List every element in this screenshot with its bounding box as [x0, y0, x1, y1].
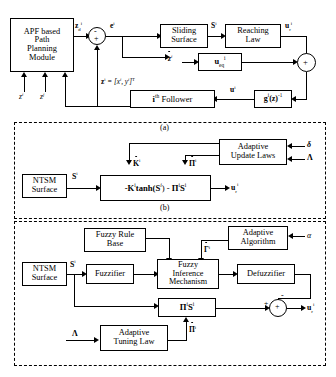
line-pis-to-sum — [216, 308, 267, 309]
label-pidot-b: Πi — [189, 159, 196, 168]
label-kdot: Ki — [133, 159, 140, 168]
section-label-b: (b) — [160, 203, 169, 212]
adaptive-update-line-2: Update Laws — [231, 152, 275, 161]
apf-feedback-arrow — [62, 72, 68, 77]
label-lambda-c: Λ — [72, 329, 78, 338]
line-rule-to-fim-h — [146, 238, 170, 239]
line-ginv-to-follower — [216, 99, 254, 100]
apf-feedback-vline — [65, 76, 66, 107]
block-adaptive-update-laws: Adaptive Update Laws — [219, 139, 287, 165]
line-sum2-down — [306, 72, 307, 100]
line-ueq-to-sum2 — [242, 62, 295, 63]
line-reaching-out — [281, 36, 307, 37]
apf-feedback-hline — [65, 106, 135, 107]
block-ntsm-surface-c: NTSM Surface — [22, 262, 67, 286]
line-lambda-input-b — [291, 159, 305, 160]
line-error-branch-down — [122, 36, 123, 58]
defuzzifier-label: Defuzzifier — [247, 270, 285, 279]
label-input-zi: zi — [19, 92, 23, 101]
apf-input-arrow-2 — [42, 72, 48, 77]
label-zdot: zi — [168, 54, 172, 63]
sliding-surface-line-2: Surface — [171, 36, 197, 45]
arrow-pidot — [182, 160, 188, 165]
label-signal-S-b: Si — [72, 172, 78, 181]
label-input-zj: zj — [40, 92, 44, 101]
label-signal-S-a: Si — [211, 21, 217, 30]
line-pidot-h — [185, 155, 219, 156]
arrow-feedback-to-sum — [94, 45, 100, 50]
fuzzifier-label: Fuzzifier — [95, 270, 125, 279]
label-alpha: α — [307, 231, 311, 240]
line-rule-to-fim-v — [169, 238, 170, 260]
line-gammadot-v — [201, 240, 202, 260]
block-defuzzifier: Defuzzifier — [237, 264, 295, 284]
label-pidot-c: Πi — [189, 325, 196, 334]
line-lambda-to-tuning — [66, 340, 96, 341]
section-label-a: (a) — [160, 123, 169, 132]
arrow-alpha-input — [288, 233, 293, 239]
sum2-plus-sign: + — [303, 57, 308, 67]
adaptive-alg-line-2: Algorithm — [241, 238, 276, 247]
block-ith-follower: ith Follower — [130, 90, 215, 108]
line-alpha-input — [292, 236, 305, 237]
label-error-e: ei — [110, 21, 115, 30]
block-fuzzy-rule-base: Fuzzy Rule Base — [84, 228, 146, 252]
line-kdot-v — [129, 143, 130, 161]
u-eq-label: ueqi — [214, 58, 225, 67]
g-inverse-label: gi(z)-1 — [264, 95, 283, 103]
arrow-lambda-input-b — [287, 156, 292, 162]
tuning-line-2: Tuning Law — [114, 338, 155, 347]
arrow-tuning-to-pis — [183, 317, 189, 322]
label-signal-u-a: ui — [230, 85, 236, 94]
label-gammadot: Γi — [204, 245, 210, 254]
label-signal-ur-c: uri — [307, 303, 314, 312]
label-delta: δ — [307, 140, 311, 149]
fuzzy-rule-line-2: Base — [96, 240, 134, 249]
line-error-main — [106, 36, 159, 37]
block-sliding-surface: Sliding Surface — [160, 24, 208, 48]
pi-s-label: ΠiSi — [180, 303, 195, 312]
line-kdot-h — [129, 143, 219, 144]
block-adaptive-tuning-law: Adaptive Tuning Law — [100, 325, 168, 351]
apf-input-arrow-1 — [21, 72, 27, 77]
block-fuzzy-inference-mechanism: Fuzzy Inference Mechanism — [157, 259, 219, 289]
line-tuning-out-v — [186, 322, 187, 340]
line-fuzzifier-to-fim — [134, 274, 156, 275]
label-signal-S-c: Si — [70, 260, 76, 269]
section-b-boundary — [14, 122, 326, 219]
line-delta-input — [291, 146, 305, 147]
label-signal-ur-b: uri — [231, 183, 238, 192]
block-apf-path-planning: APF based Path Planning Module — [10, 18, 74, 72]
line-sum2-to-ginv — [295, 99, 307, 100]
block-control-law-b: -Kitanh(Si) - ΠiSi — [100, 175, 211, 201]
label-zd: zdi — [75, 21, 82, 30]
block-pi-s: ΠiSi — [158, 298, 216, 317]
apf-line-4: Module — [24, 54, 61, 63]
arrow-kdot — [126, 160, 132, 165]
sum-plus-sign: + — [94, 34, 99, 43]
apf-input-line-1 — [24, 76, 25, 92]
diagram-canvas: APF based Path Planning Module zi zj zdi… — [0, 0, 336, 377]
line-defuzz-out-v — [310, 274, 311, 299]
label-lambda-b: Λ — [307, 153, 313, 162]
follower-label: ith Follower — [153, 95, 193, 104]
label-state-equation: zi = [xi, yi]T — [101, 78, 135, 86]
block-fuzzifier: Fuzzifier — [86, 264, 134, 284]
block-ntsm-surface-b: NTSM Surface — [22, 174, 67, 198]
label-sum-plus-c: + — [264, 299, 268, 308]
arrow-lambda-to-tuning — [94, 337, 99, 343]
line-feedback-to-sum — [97, 50, 98, 106]
arrow-law-to-ur-b — [225, 185, 230, 191]
reaching-law-line-2: Law — [237, 36, 269, 45]
apf-input-line-2 — [45, 76, 46, 92]
label-sum-minus-c: - — [281, 291, 284, 300]
line-S-branch-v-c — [74, 274, 75, 307]
line-error-branch-right — [122, 57, 167, 58]
ntsm-c-line-2: Surface — [32, 274, 58, 283]
block-g-inverse: gi(z)-1 — [254, 90, 292, 108]
arrow-delta-input — [287, 143, 292, 149]
line-defuzz-out-h — [295, 274, 311, 275]
arrow-sum-to-ur-c — [301, 305, 306, 311]
label-signal-ur-a: uri — [285, 21, 292, 30]
block-adaptive-algorithm: Adaptive Algorithm — [228, 226, 288, 250]
